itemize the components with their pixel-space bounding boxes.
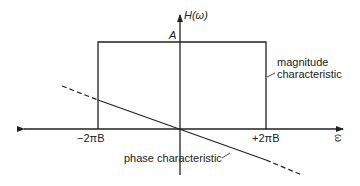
left-cutoff-label: −2πB — [77, 132, 104, 144]
phase-label: phase characteristic — [124, 152, 222, 164]
y-axis-label: H(ω) — [184, 9, 208, 21]
magnitude-label-line1: magnitude — [277, 56, 328, 68]
magnitude-leader — [267, 73, 275, 77]
x-axis-label: ω — [332, 134, 344, 142]
phase-leader — [222, 153, 230, 158]
phase-dashed-right — [266, 160, 302, 175]
magnitude-label-line2: characteristic — [277, 68, 342, 80]
amplitude-label: A — [169, 29, 176, 41]
phase-dashed-left — [62, 86, 98, 100]
magnitude-characteristic — [98, 42, 266, 129]
right-cutoff-label: +2πB — [252, 132, 279, 144]
phase-characteristic — [98, 100, 266, 160]
